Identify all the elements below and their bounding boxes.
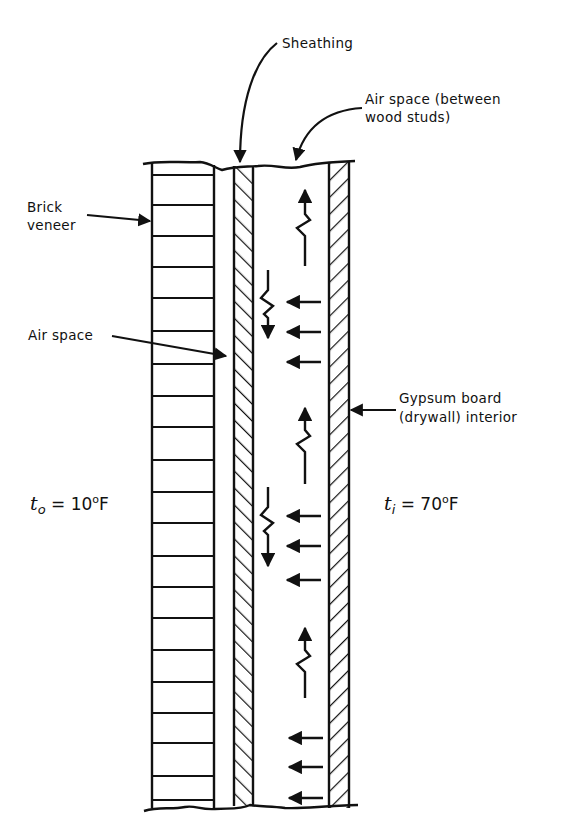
- label-air-space-studs-2: wood studs): [365, 109, 450, 126]
- outside-temperature: to = 10oF: [30, 492, 109, 517]
- label-sheathing: Sheathing: [282, 35, 353, 52]
- sheathing-layer: [234, 166, 253, 806]
- brick-veneer: [152, 162, 214, 808]
- gypsum-board-layer: [329, 162, 349, 808]
- label-air-space-studs-1: Air space (between: [365, 91, 501, 108]
- inside-temperature: ti = 70oF: [384, 492, 458, 517]
- label-gypsum-2: (drywall) interior: [399, 409, 517, 426]
- label-gypsum-1: Gypsum board: [399, 390, 502, 407]
- label-brick-1: Brick: [27, 199, 62, 216]
- bottom-break-line: [144, 805, 358, 811]
- label-air-space: Air space: [28, 327, 93, 344]
- label-brick-2: veneer: [27, 217, 76, 234]
- heat-flow-arrows: [261, 190, 323, 798]
